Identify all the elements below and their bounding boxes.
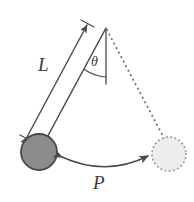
pendulum-rod [44, 28, 106, 143]
angle-label: θ [91, 55, 98, 69]
swing-path-label: P [93, 173, 105, 192]
pendulum-rod-dotted [107, 30, 165, 140]
length-label: L [38, 55, 49, 74]
pendulum-bob-ghost [152, 137, 186, 171]
angle-arc [85, 70, 107, 78]
swing-path-arrow [62, 156, 148, 167]
length-measure-tick-top [81, 20, 94, 27]
pendulum-bob [21, 134, 57, 170]
pendulum-figure: L θ P [0, 0, 194, 202]
